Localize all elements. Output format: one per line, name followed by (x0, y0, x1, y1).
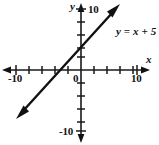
x-axis-label: x (146, 54, 152, 65)
y-axis-arrowhead-up (78, 3, 85, 12)
x-axis-arrowhead-right (141, 67, 150, 74)
function-line-y-equals-x-plus-5 (16, 4, 120, 119)
x-axis-max-tick-label: 10 (131, 73, 142, 84)
y-axis-arrowhead-down (78, 134, 85, 143)
y-axis-label: y (70, 1, 75, 12)
equation-label: y = x + 5 (116, 26, 156, 37)
graph-figure: y 10 x -10 0 10 -10 y = x + 5 (0, 0, 159, 145)
origin-label: 0 (73, 73, 78, 84)
x-axis-min-tick-label: -10 (8, 73, 22, 84)
y-axis-min-tick-label: -10 (59, 126, 73, 137)
y-axis-max-tick-label: 10 (88, 4, 99, 15)
